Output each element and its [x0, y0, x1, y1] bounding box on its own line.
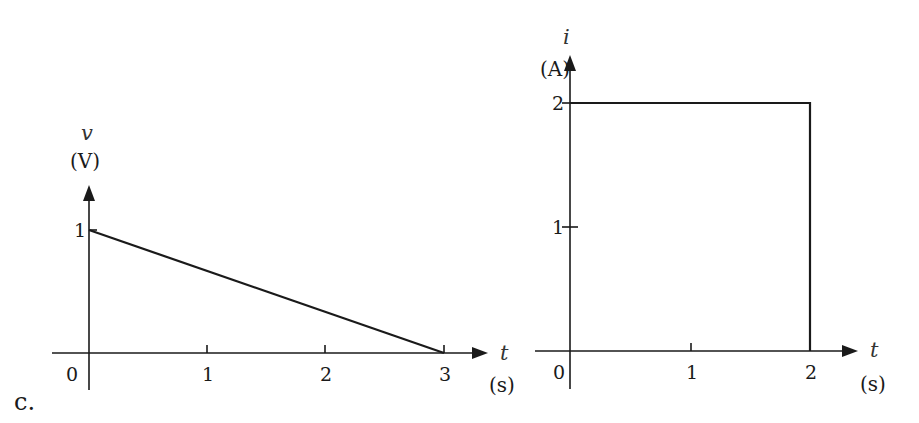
- y-axis-arrow-icon: [83, 185, 95, 201]
- origin-label: 0: [553, 361, 565, 383]
- part-label: c.: [14, 388, 35, 416]
- x-axis-unit: (s): [860, 372, 886, 396]
- current-line: [570, 103, 810, 351]
- x-axis-arrow-icon: [842, 345, 858, 357]
- y-axis-unit: (A): [540, 57, 570, 81]
- y-tick-label: 1: [74, 219, 86, 241]
- y-axis-unit: (V): [70, 149, 100, 173]
- y-tick-label: 1: [552, 216, 564, 238]
- x-axis-arrow-icon: [472, 347, 488, 359]
- origin-label: 0: [66, 363, 78, 385]
- x-axis-variable: t: [500, 341, 509, 365]
- voltage-line: [89, 230, 444, 353]
- y-axis-variable: v: [81, 121, 93, 145]
- current-chart: 1 2 0 1 2 i (A) t (s): [535, 25, 886, 396]
- x-axis-unit: (s): [489, 373, 515, 397]
- y-axis-variable: i: [563, 25, 570, 49]
- y-tick-label: 2: [552, 92, 564, 114]
- voltage-chart: 1 0 1 2 3 v (V) t (s): [52, 121, 515, 397]
- x-tick-label: 1: [686, 361, 698, 383]
- x-tick-label: 2: [805, 361, 817, 383]
- figure: c. 1 0 1 2 3 v (V) t (s): [0, 0, 919, 423]
- x-tick-label: 3: [439, 363, 451, 385]
- x-axis-variable: t: [870, 338, 879, 362]
- x-tick-label: 2: [320, 363, 332, 385]
- x-tick-label: 1: [202, 363, 214, 385]
